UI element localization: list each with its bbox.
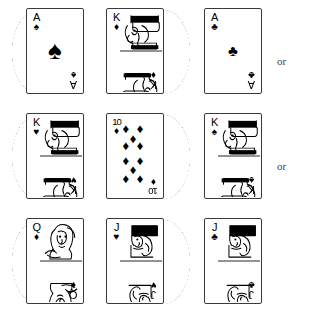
card-row: Q♦Q♦ [0, 210, 318, 316]
card-slot: 10♦10♦♦♦♦♦♦♦♦♦♦♦ [104, 113, 190, 205]
card-pip-diamond-icon: ♦ [137, 153, 144, 166]
card-pip-diamond-icon: ♦ [122, 139, 129, 152]
card-corner-index: 10♦ [110, 117, 123, 135]
card-corner-index: Q♦ [30, 222, 43, 241]
playing-card[interactable]: J♣J♣ [204, 218, 262, 304]
card-suit-heart-icon: ♥ [67, 176, 80, 185]
playing-card[interactable]: K♠K♠ [204, 113, 262, 199]
or-connector-label: or [277, 55, 286, 67]
playing-card[interactable]: K♦K♦ [106, 8, 164, 94]
card-slot: Q♦Q♦ [12, 218, 98, 310]
playing-card[interactable]: A♠A♠♠ [26, 8, 84, 94]
card-corner-index: K♥ [67, 176, 80, 195]
card-pip-diamond-icon: ♦ [130, 163, 137, 176]
card-slot: J♣J♣ [190, 218, 276, 310]
card-row: A♠A♠♠K♦K♦ [0, 0, 318, 106]
card-suit-club-icon: ♣ [208, 232, 221, 241]
card-corner-index: J♥ [110, 222, 123, 241]
card-corner-index: A♣ [245, 71, 258, 90]
playing-card[interactable]: 10♦10♦♦♦♦♦♦♦♦♦♦♦ [106, 113, 164, 199]
card-suit-club-icon: ♣ [208, 22, 221, 31]
card-corner-index: J♥ [147, 281, 160, 300]
playing-cards-figure: A♠A♠♠K♦K♦ [0, 0, 318, 318]
card-pip-diamond-icon: ♦ [137, 172, 144, 185]
hidden-card-edge-icon [164, 115, 190, 199]
playing-card[interactable]: K♥K♥ [26, 113, 84, 199]
card-slot: K♥K♥ [12, 113, 98, 205]
card-pip-diamond-icon: ♦ [122, 153, 129, 166]
card-pip-diamond-icon: ♦ [122, 122, 129, 135]
card-suit-heart-icon: ♥ [110, 232, 123, 241]
card-slot: A♣A♣♣ [190, 8, 276, 100]
card-suit-heart-icon: ♥ [30, 127, 43, 136]
card-corner-index: K♠ [208, 117, 221, 136]
card-corner-index: J♣ [245, 281, 258, 300]
card-corner-index: A♠ [67, 71, 80, 90]
card-center-spade-icon: ♠ [48, 38, 62, 64]
card-slot: A♠A♠♠ [12, 8, 98, 100]
hidden-card-edge-icon [164, 10, 190, 94]
card-slot: K♦K♦ [104, 8, 190, 100]
playing-card[interactable]: Q♦Q♦ [26, 218, 84, 304]
card-suit-spade-icon: ♠ [245, 176, 258, 185]
card-slot: K♠K♠ [190, 113, 276, 205]
card-pip-diamond-icon: ♦ [122, 172, 129, 185]
card-suit-diamond-icon: ♦ [30, 232, 43, 241]
hidden-card-edge-icon [164, 220, 190, 304]
card-corner-index: 10♦ [147, 178, 160, 196]
card-center-club-icon: ♣ [228, 44, 238, 59]
or-connector-label: or [277, 160, 286, 172]
card-slot: J♥J♥ [104, 218, 190, 310]
card-suit-diamond-icon: ♦ [110, 22, 123, 31]
playing-card[interactable]: A♣A♣♣ [204, 8, 262, 94]
card-suit-club-icon: ♣ [245, 71, 258, 80]
card-suit-spade-icon: ♠ [30, 22, 43, 31]
card-suit-spade-icon: ♠ [67, 71, 80, 80]
card-suit-club-icon: ♣ [245, 281, 258, 290]
card-corner-index: K♥ [30, 117, 43, 136]
card-corner-index: A♣ [208, 12, 221, 31]
card-corner-index: K♠ [245, 176, 258, 195]
card-pip-diamond-icon: ♦ [137, 122, 144, 135]
card-pip-diamond-icon: ♦ [130, 131, 137, 144]
card-corner-index: K♦ [110, 12, 123, 31]
card-corner-index: A♠ [30, 12, 43, 31]
card-pip-diamond-icon: ♦ [137, 139, 144, 152]
card-corner-index: J♣ [208, 222, 221, 241]
card-corner-index: K♦ [147, 71, 160, 90]
card-suit-heart-icon: ♥ [147, 281, 160, 290]
card-suit-spade-icon: ♠ [208, 127, 221, 136]
card-suit-diamond-icon: ♦ [147, 71, 160, 80]
card-row: K♥K♥ [0, 105, 318, 211]
card-corner-index: Q♦ [67, 281, 80, 300]
playing-card[interactable]: J♥J♥ [106, 218, 164, 304]
